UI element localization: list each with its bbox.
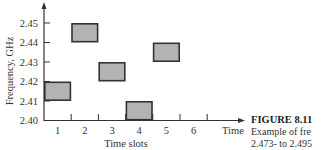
caption-line-2: 2.473- to 2.495 xyxy=(251,138,321,150)
frequency-block-slot-1 xyxy=(45,82,71,100)
frequency-block-slot-3 xyxy=(99,63,125,81)
caption-line-1: Example of fre xyxy=(251,126,321,138)
y-tick-label: 2.42 xyxy=(20,76,38,87)
x-axis-end-label: Time xyxy=(222,125,244,136)
y-tick-label: 2.41 xyxy=(20,96,38,107)
figure-caption: FIGURE 8.11 Example of fre 2.473- to 2.4… xyxy=(251,114,321,150)
frequency-block-slot-2 xyxy=(72,24,98,42)
x-tick-label: 3 xyxy=(109,125,114,136)
y-axis-arrow-icon xyxy=(42,2,47,9)
y-tick-label: 2.40 xyxy=(20,115,38,126)
x-tick-label: 1 xyxy=(55,125,60,136)
y-tick-label: 2.44 xyxy=(20,37,39,48)
y-tick-label: 2.43 xyxy=(20,57,38,68)
frequency-block-slot-5 xyxy=(154,43,180,61)
x-tick-label: 6 xyxy=(191,125,196,136)
y-axis-title: Frequency, GHz xyxy=(4,36,15,105)
x-tick-label: 2 xyxy=(82,125,87,136)
y-tick-label: 2.45 xyxy=(20,18,38,29)
x-axis-arrow-icon xyxy=(238,118,245,123)
x-tick-label: 5 xyxy=(164,125,169,136)
frequency-block-slot-4 xyxy=(126,102,152,120)
figure-label: FIGURE 8.11 xyxy=(251,114,321,126)
x-axis-title: Time slots xyxy=(104,138,148,149)
x-tick-label: 4 xyxy=(137,125,143,136)
frequency-blocks xyxy=(45,24,179,120)
y-ticks: 2.402.412.422.432.442.45 xyxy=(20,18,50,127)
